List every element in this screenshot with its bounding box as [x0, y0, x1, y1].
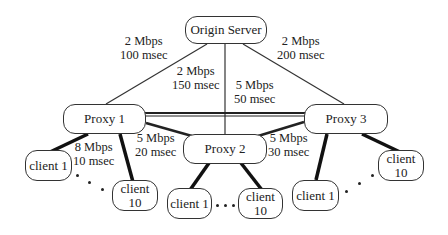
proxy-1-node: Proxy 1: [63, 104, 146, 134]
delay-text: 10 msec: [73, 154, 114, 168]
delay-text: 20 msec: [135, 145, 176, 159]
ellipsis-dot: [216, 204, 219, 207]
delay-text: 50 msec: [234, 92, 275, 106]
backbone-label: 5 Mbps 50 msec: [234, 78, 275, 106]
ellipsis-dot: [345, 190, 348, 193]
origin-server-node: Origin Server: [185, 16, 267, 44]
proxy-3-node: Proxy 3: [304, 104, 388, 134]
bandwidth-text: 5 Mbps: [234, 78, 275, 92]
bandwidth-text: 2 Mbps: [277, 34, 325, 48]
proxy-2-node: Proxy 2: [183, 134, 267, 164]
origin-proxy1-label: 2 Mbps 100 msec: [120, 34, 168, 62]
ellipsis-dot: [101, 188, 104, 191]
bandwidth-text: 5 Mbps: [135, 131, 176, 145]
bandwidth-text: 2 Mbps: [172, 64, 220, 78]
ellipsis-dot: [232, 204, 235, 207]
proxy-3-client-1-node: client 1: [292, 180, 339, 211]
proxy-1-client-10-node: client 10: [112, 180, 158, 211]
delay-text: 200 msec: [277, 48, 325, 62]
proxy-1-client-1-node: client 1: [25, 150, 72, 181]
delay-text: 30 msec: [268, 145, 309, 159]
ellipsis-dot: [88, 181, 91, 184]
ellipsis-dot: [224, 204, 227, 207]
ellipsis-dot: [358, 182, 361, 185]
proxy1-clients-label: 8 Mbps 10 msec: [73, 140, 114, 168]
delay-text: 100 msec: [120, 48, 168, 62]
bandwidth-text: 8 Mbps: [73, 140, 114, 154]
bandwidth-text: 5 Mbps: [268, 131, 309, 145]
proxy-3-client-10-node: client 10: [378, 150, 424, 181]
proxy-2-client-1-node: client 1: [167, 188, 212, 219]
delay-text: 150 msec: [172, 78, 220, 92]
ellipsis-dot: [76, 174, 79, 177]
ellipsis-dot: [371, 174, 374, 177]
bandwidth-text: 2 Mbps: [120, 34, 168, 48]
proxy-2-client-10-node: client 10: [238, 188, 283, 219]
proxy1-proxy2-label: 5 Mbps 20 msec: [135, 131, 176, 159]
origin-proxy2-label: 2 Mbps 150 msec: [172, 64, 220, 92]
origin-proxy3-label: 2 Mbps 200 msec: [277, 34, 325, 62]
proxy2-proxy3-label: 5 Mbps 30 msec: [268, 131, 309, 159]
